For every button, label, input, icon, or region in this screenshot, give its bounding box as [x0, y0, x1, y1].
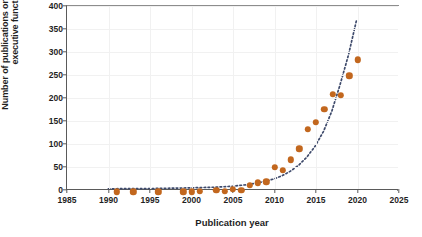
- data-point: [221, 188, 227, 194]
- data-point: [130, 189, 136, 195]
- x-axis-tick-label: 1995: [141, 195, 160, 205]
- x-gridline: [233, 6, 234, 189]
- x-axis-tick-label: 2005: [224, 195, 243, 205]
- x-gridline: [275, 6, 276, 189]
- y-axis-tick-label: 150: [49, 116, 63, 126]
- data-point: [180, 189, 186, 195]
- y-axis-tick-label: 200: [49, 93, 63, 103]
- y-axis-tick-label: 300: [49, 47, 63, 57]
- x-axis-tick-label: 2025: [390, 195, 409, 205]
- x-axis-tick-mark: [149, 189, 150, 193]
- y-axis-title: Number of publications on exercise and e…: [0, 0, 22, 124]
- y-axis-tick-label: 400: [49, 1, 63, 11]
- data-point: [197, 188, 203, 194]
- data-point: [230, 186, 236, 192]
- chart-figure: Number of publications on exercise and e…: [0, 0, 422, 237]
- x-axis-tick-label: 2000: [182, 195, 201, 205]
- data-point: [114, 189, 120, 195]
- x-gridline: [150, 6, 151, 189]
- x-axis-tick-label: 2020: [348, 195, 367, 205]
- y-axis-tick-label: 100: [49, 139, 63, 149]
- y-axis-tick-mark: [63, 5, 67, 6]
- y-axis-tick-label: 350: [49, 24, 63, 34]
- x-axis-tick-mark: [398, 189, 399, 193]
- y-axis-tick-label: 250: [49, 70, 63, 80]
- x-gridline: [192, 6, 193, 189]
- x-axis-tick-mark: [66, 189, 67, 193]
- y-axis-tick-mark: [63, 28, 67, 29]
- x-axis-tick-label: 1990: [99, 195, 118, 205]
- x-axis-title: Publication year: [66, 217, 398, 228]
- x-gridline: [358, 6, 359, 189]
- y-axis-tick-mark: [63, 143, 67, 144]
- y-axis-tick-mark: [63, 51, 67, 52]
- y-axis-tick-mark: [63, 120, 67, 121]
- x-gridline: [316, 6, 317, 189]
- x-axis-tick-label: 1985: [58, 195, 77, 205]
- y-axis-tick-mark: [63, 97, 67, 98]
- data-point: [188, 189, 194, 195]
- x-axis-tick-mark: [357, 189, 358, 193]
- x-axis-tick-label: 2015: [307, 195, 326, 205]
- x-axis-tick-mark: [108, 189, 109, 193]
- x-axis-tick-label: 2010: [265, 195, 284, 205]
- data-point: [155, 189, 161, 195]
- x-axis-tick-mark: [274, 189, 275, 193]
- x-axis-tick-mark: [315, 189, 316, 193]
- plot-area: 0501001502002503003504001985199019952000…: [66, 6, 398, 190]
- y-axis-tick-label: 50: [54, 162, 63, 172]
- x-gridline: [109, 6, 110, 189]
- data-point: [238, 187, 244, 193]
- data-point: [213, 187, 219, 193]
- y-axis-tick-mark: [63, 166, 67, 167]
- y-axis-tick-mark: [63, 74, 67, 75]
